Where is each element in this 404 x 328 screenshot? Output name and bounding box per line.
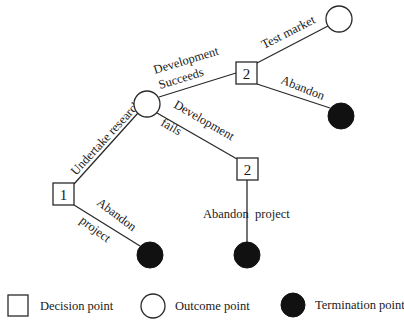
legend-termination-icon bbox=[281, 293, 305, 317]
decision-node-1: 1 bbox=[53, 183, 74, 205]
decision-node-2-lower-number: 2 bbox=[244, 162, 252, 178]
legend-decision-label: Decision point bbox=[40, 299, 114, 313]
edge-undertake-research bbox=[74, 113, 138, 184]
outcome-node-research bbox=[134, 91, 160, 117]
label-development-fails-2: fails bbox=[159, 115, 185, 138]
decision-node-1-number: 1 bbox=[60, 187, 68, 203]
legend-outcome-label: Outcome point bbox=[175, 299, 250, 313]
legend-decision-icon bbox=[8, 295, 28, 316]
termination-node-development-fails bbox=[234, 242, 260, 268]
termination-node-abandon bbox=[328, 103, 354, 129]
legend-termination-label: Termination point bbox=[315, 298, 404, 312]
label-undertake-research: Undertake research bbox=[68, 97, 144, 178]
decision-node-2-upper-number: 2 bbox=[243, 66, 251, 82]
decision-tree-diagram: Undertake research Abandon project Devel… bbox=[0, 0, 404, 328]
label-abandon-project-2: Abandon project bbox=[203, 207, 290, 221]
decision-node-2-lower: 2 bbox=[237, 158, 258, 180]
label-test-market: Test market bbox=[259, 12, 318, 51]
label-development-fails-1: Development bbox=[172, 97, 238, 143]
outcome-node-test-market bbox=[326, 6, 352, 32]
termination-node-abandon-project bbox=[137, 242, 163, 268]
legend-outcome-icon bbox=[141, 294, 165, 318]
decision-node-2-upper: 2 bbox=[236, 62, 257, 84]
legend: Decision point Outcome point Termination… bbox=[8, 293, 404, 318]
